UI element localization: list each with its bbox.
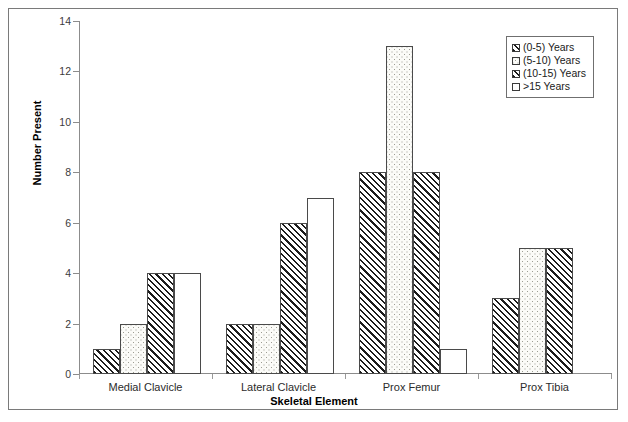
x-category-label-4: Prox Tibia (520, 381, 569, 393)
legend-item: (5-10) Years (512, 54, 586, 67)
bar (440, 349, 467, 374)
x-category-label-3: Prox Femur (383, 381, 440, 393)
bar (386, 46, 413, 374)
x-tick-mark (478, 374, 479, 379)
legend-item-label: >15 Years (523, 80, 570, 93)
y-axis-title: Number Present (31, 63, 43, 223)
x-tick-mark (79, 374, 80, 379)
bar (174, 273, 201, 374)
legend-item: (0-5) Years (512, 41, 586, 54)
x-category-label-1: Medial Clavicle (109, 381, 183, 393)
legend-swatch-icon (512, 44, 520, 52)
bar (519, 248, 546, 374)
chart-legend: (0-5) Years(5-10) Years(10-15) Years>15 … (506, 36, 594, 98)
y-tick-label: 14 (31, 15, 71, 27)
bar (253, 324, 280, 374)
x-tick-mark (611, 374, 612, 379)
legend-item-label: (5-10) Years (523, 54, 580, 67)
y-tick-mark (73, 122, 79, 123)
bar (93, 349, 120, 374)
y-tick-mark (73, 71, 79, 72)
legend-swatch-icon (512, 83, 520, 91)
y-tick-mark (73, 172, 79, 173)
legend-item: (10-15) Years (512, 67, 586, 80)
x-tick-mark (212, 374, 213, 379)
legend-swatch-icon (512, 57, 520, 65)
y-tick-mark (73, 21, 79, 22)
x-axis-title: Skeletal Element (9, 395, 619, 407)
chart-figure: 02468101214 Medial ClavicleLateral Clavi… (8, 8, 618, 410)
y-tick-label: 4 (31, 267, 71, 279)
legend-item: >15 Years (512, 80, 586, 93)
legend-item-label: (10-15) Years (523, 67, 586, 80)
bar (280, 223, 307, 374)
bar (120, 324, 147, 374)
x-tick-mark (345, 374, 346, 379)
y-tick-label: 0 (31, 368, 71, 380)
y-tick-mark (73, 223, 79, 224)
bar (492, 298, 519, 374)
bar (546, 248, 573, 374)
y-tick-label: 2 (31, 318, 71, 330)
legend-swatch-icon (512, 70, 520, 78)
bar (359, 172, 386, 374)
bar (413, 172, 440, 374)
x-category-label-2: Lateral Clavicle (241, 381, 316, 393)
bar (147, 273, 174, 374)
bar (226, 324, 253, 374)
y-tick-mark (73, 324, 79, 325)
legend-item-label: (0-5) Years (523, 41, 574, 54)
bar (307, 198, 334, 375)
y-tick-mark (73, 273, 79, 274)
